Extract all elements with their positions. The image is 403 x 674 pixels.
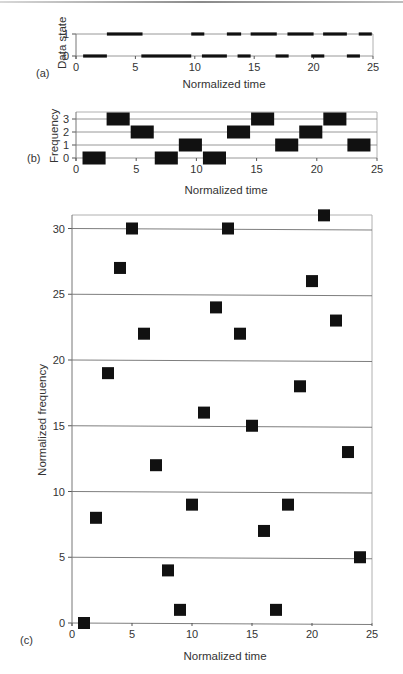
data-state-segment <box>238 54 251 57</box>
y-tick-label: 10 <box>53 486 65 498</box>
x-tick-label: 20 <box>307 61 319 73</box>
x-tick-label: 10 <box>189 61 201 73</box>
frequency-point-marker <box>114 262 126 274</box>
frequency-point-marker <box>258 525 270 537</box>
frequency-point-marker <box>138 328 150 340</box>
frequency-hop-marker <box>323 113 346 126</box>
x-tick-label: 15 <box>248 61 260 73</box>
frequency-point-marker <box>210 301 222 313</box>
x-tick-label: 20 <box>311 163 323 175</box>
y-tick-label: 3 <box>63 113 69 125</box>
panel-c-normalized-frequency: 0510152025300510152025 <box>53 209 378 640</box>
data-state-segment <box>276 54 289 57</box>
panel-a-y-axis-label: Data state <box>56 17 68 69</box>
frequency-hop-marker <box>107 113 130 126</box>
frequency-hop-marker <box>251 113 274 126</box>
data-state-segment <box>323 32 347 35</box>
frequency-point-marker <box>90 512 102 524</box>
x-tick-label: 0 <box>73 163 79 175</box>
y-tick-label: 0 <box>63 152 69 164</box>
frequency-hop-marker <box>275 139 298 152</box>
x-tick-label: 5 <box>132 61 138 73</box>
frequency-hop-marker <box>347 139 370 152</box>
data-state-segment <box>311 54 324 57</box>
frequency-point-marker <box>186 499 198 511</box>
frequency-point-marker <box>126 223 138 235</box>
frequency-point-marker <box>318 209 330 221</box>
y-tick-label: 20 <box>53 354 65 366</box>
panel-c-y-axis-label: Normalized frequency <box>36 364 48 476</box>
panel-a-data-state: 010510152025 <box>63 28 379 73</box>
frequency-point-marker <box>198 407 210 419</box>
y-tick-label: 2 <box>63 126 69 138</box>
x-tick-label: 25 <box>371 163 383 175</box>
figure: 010510152025 01230510152025 051015202530… <box>0 0 403 674</box>
data-state-segment <box>191 32 204 35</box>
frequency-point-marker <box>174 604 186 616</box>
x-tick-label: 5 <box>133 163 139 175</box>
frequency-point-marker <box>150 459 162 471</box>
panel-b-x-axis-label: Normalized time <box>184 184 267 196</box>
panel-b-frequency: 01230510152025 <box>63 112 383 175</box>
panel-b-y-axis-label: Frequency <box>48 108 60 163</box>
panel-c-label: (c) <box>20 634 33 646</box>
frequency-point-marker <box>234 328 246 340</box>
data-state-segment <box>251 32 277 35</box>
frequency-hop-marker <box>227 126 250 139</box>
x-tick-label: 20 <box>306 628 318 640</box>
data-state-segment <box>359 32 372 35</box>
data-state-segment <box>202 54 227 57</box>
frequency-point-marker <box>294 380 306 392</box>
frequency-point-marker <box>162 564 174 576</box>
frequency-hop-marker <box>83 152 106 165</box>
frequency-point-marker <box>306 275 318 287</box>
data-state-segment <box>107 32 143 35</box>
data-state-segment <box>287 32 313 35</box>
data-state-segment <box>141 54 191 57</box>
gridline <box>72 557 372 559</box>
panel-a-label: (a) <box>36 67 49 79</box>
x-tick-label: 15 <box>246 628 258 640</box>
frequency-point-marker <box>330 315 342 327</box>
data-state-segment <box>83 54 107 57</box>
frequency-point-marker <box>222 223 234 235</box>
frequency-point-marker <box>246 420 258 432</box>
x-tick-label: 0 <box>69 628 75 640</box>
x-tick-label: 10 <box>186 628 198 640</box>
y-tick-label: 15 <box>53 420 65 432</box>
frequency-point-marker <box>78 617 90 629</box>
panel-b-label: (b) <box>27 152 40 164</box>
frequency-point-marker <box>102 367 114 379</box>
frequency-point-marker <box>342 446 354 458</box>
frequency-point-marker <box>282 499 294 511</box>
frequency-hop-marker <box>155 152 178 165</box>
y-tick-label: 30 <box>53 223 65 235</box>
frequency-hop-marker <box>203 152 226 165</box>
frequency-hop-marker <box>131 126 154 139</box>
panel-c-x-axis-label: Normalized time <box>183 650 266 662</box>
data-state-segment <box>347 54 360 57</box>
x-tick-label: 0 <box>73 61 79 73</box>
x-tick-label: 25 <box>366 628 378 640</box>
x-tick-label: 5 <box>129 628 135 640</box>
gridline <box>72 360 372 362</box>
x-tick-label: 15 <box>250 163 262 175</box>
frequency-point-marker <box>270 604 282 616</box>
panel-a-x-axis-label: Normalized time <box>182 78 265 90</box>
y-tick-label: 5 <box>59 551 65 563</box>
frequency-hop-marker <box>179 139 202 152</box>
y-tick-label: 0 <box>59 617 65 629</box>
x-tick-label: 25 <box>367 61 379 73</box>
frequency-hop-marker <box>299 126 322 139</box>
gridline <box>72 426 372 428</box>
frequency-point-marker <box>354 551 366 563</box>
data-state-segment <box>227 32 241 35</box>
y-tick-label: 1 <box>63 139 69 151</box>
gridline <box>72 294 372 296</box>
y-tick-label: 25 <box>53 288 65 300</box>
gridline <box>72 492 372 494</box>
gridline <box>72 623 372 625</box>
x-tick-label: 10 <box>190 163 202 175</box>
